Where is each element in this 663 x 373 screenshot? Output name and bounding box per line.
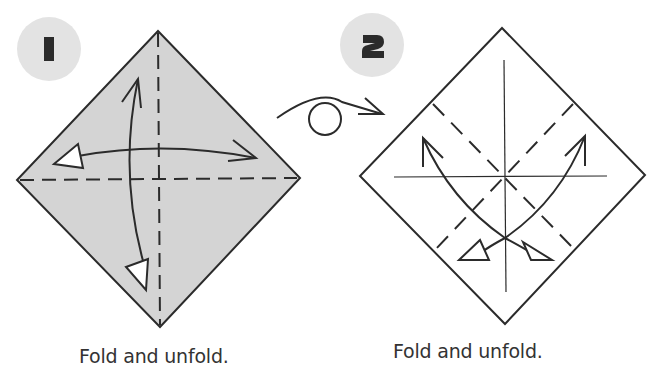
number-2-glyph [362,35,384,58]
origami-diagram [0,0,663,373]
step-1-caption: Fold and unfold. [79,345,229,367]
step-2-caption: Fold and unfold. [393,340,543,362]
step-2 [340,13,645,324]
turn-over-icon [277,98,383,135]
number-1-glyph [44,37,54,61]
step-1-badge [17,17,81,81]
step-1 [17,17,300,327]
step-2-badge [340,13,404,77]
